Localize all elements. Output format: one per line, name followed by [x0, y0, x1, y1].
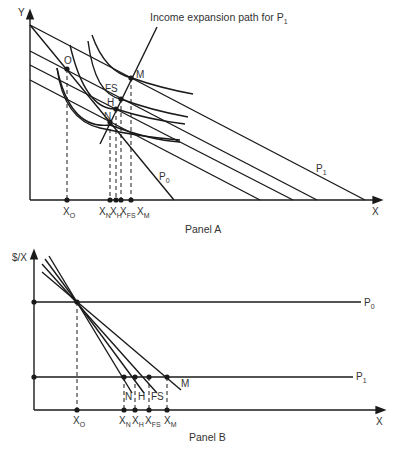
budget-label-p0: P0: [159, 171, 170, 184]
point-label-fs: FS: [105, 83, 118, 94]
budget-line-fs: [30, 51, 317, 200]
tick-dot-xh: [113, 197, 118, 202]
curve-label-fs: FS: [151, 391, 164, 402]
curve-label-n: N: [125, 391, 132, 402]
point-b-m: [164, 374, 169, 379]
point-m: [128, 75, 133, 80]
expansion-path-label: Income expansion path for P1: [150, 11, 288, 25]
tick-label-b-xm: XM: [164, 415, 177, 428]
point-o: [64, 66, 69, 71]
tick-label-b-xfs: XFS: [145, 415, 161, 428]
point-b-o: [74, 299, 79, 304]
tick-dot-xm: [128, 197, 133, 202]
axis-dot-p0: [31, 299, 36, 304]
point-b-h: [132, 374, 137, 379]
price-label-p1: P1: [356, 371, 367, 384]
tick-label-b-xn: XN: [119, 415, 131, 428]
tick-dot-xn: [107, 197, 112, 202]
panel-a-y-label: Y: [18, 7, 25, 18]
curve-label-h: H: [138, 391, 145, 402]
panel-a-x-label: X: [372, 206, 379, 217]
budget-label-p1: P1: [316, 163, 327, 176]
demand-curve-n: [49, 256, 132, 393]
tick-dot-b-xo: [74, 407, 79, 412]
panel-b-x-label: X: [376, 416, 383, 427]
price-label-p0: P0: [364, 297, 375, 310]
tick-dot-b-xh: [132, 407, 137, 412]
budget-line-p0: [30, 25, 174, 200]
panel-b-y-label: $/X: [12, 252, 27, 263]
tick-dot-b-xm: [164, 407, 169, 412]
demand-curve-fs: [42, 264, 157, 393]
panel-b-points: [31, 299, 169, 412]
tick-dot-b-xfs: [146, 407, 151, 412]
tick-dot-xfs: [118, 197, 123, 202]
tick-dot-xo: [64, 197, 69, 202]
panel-b: [34, 254, 381, 410]
tick-label-b-xo: XO: [73, 415, 86, 428]
tick-label-xn: XN: [99, 206, 111, 219]
demand-curve-h: [45, 259, 144, 393]
panel-b-caption: Panel B: [189, 431, 226, 443]
point-fs: [118, 96, 123, 101]
tick-label-xo: XO: [63, 206, 76, 219]
point-label-h: H: [107, 97, 114, 108]
point-label-m: M: [136, 69, 144, 80]
budget-line-p1: [30, 25, 365, 200]
point-b-n: [121, 374, 126, 379]
curve-label-m: M: [181, 378, 189, 389]
tick-label-xm: XM: [137, 206, 150, 219]
tick-label-b-xh: XH: [132, 415, 144, 428]
demand-curve-m: [42, 272, 181, 390]
panel-a-caption: Panel A: [185, 223, 221, 235]
point-label-n: N: [104, 111, 111, 122]
tick-label-xfs: XFS: [120, 206, 136, 219]
point-b-fs: [146, 374, 151, 379]
axis-dot-p1: [31, 374, 36, 379]
tick-dot-b-xn: [121, 407, 126, 412]
point-label-o: O: [64, 55, 72, 66]
diagram-canvas: Y X Income expansion path for P1 O M FS …: [0, 0, 397, 456]
